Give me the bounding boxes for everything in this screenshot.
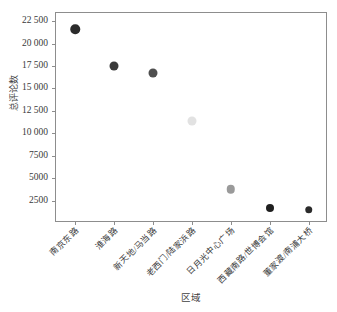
data-point[interactable] [110, 61, 119, 70]
y-axis-tick-labels: 25005000750010 00012 50015 00017 50020 0… [0, 0, 52, 222]
y-axis-tick-label: 12 500 [22, 105, 48, 115]
y-axis-tick-label: 5000 [29, 172, 48, 182]
y-axis-tick-label: 22 500 [22, 15, 48, 25]
y-axis-tick [52, 156, 56, 157]
y-axis-tick-label: 7500 [29, 150, 48, 160]
y-axis-tick [52, 201, 56, 202]
data-point[interactable] [149, 69, 158, 78]
plot-area [55, 12, 327, 222]
data-point[interactable] [227, 185, 236, 194]
scatter-chart: 总评论数 25005000750010 00012 50015 00017 50… [0, 0, 337, 312]
y-axis-tick [52, 21, 56, 22]
y-axis-tick [52, 111, 56, 112]
y-axis-tick [52, 178, 56, 179]
data-point[interactable] [305, 206, 313, 214]
y-axis-tick [52, 66, 56, 67]
data-point[interactable] [188, 117, 197, 126]
y-axis-tick-label: 2500 [29, 195, 48, 205]
x-axis-tick-labels: 南京东路淮海路新天地/马当路老西门/陆家浜路日月光中心广场西藏南路/世博会馆董家… [55, 222, 327, 290]
data-point[interactable] [71, 24, 81, 34]
y-axis-tick-label: 17 500 [22, 60, 48, 70]
data-point[interactable] [266, 204, 274, 212]
y-axis-tick-label: 10 000 [22, 127, 48, 137]
y-axis-tick-label: 20 000 [22, 38, 48, 48]
y-axis-tick [52, 88, 56, 89]
y-axis-tick [52, 44, 56, 45]
x-axis-title: 区域 [55, 293, 327, 304]
y-axis-tick-label: 15 000 [22, 82, 48, 92]
y-axis-tick [52, 133, 56, 134]
